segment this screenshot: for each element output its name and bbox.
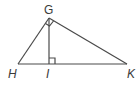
right-angle-mark-i — [49, 58, 55, 64]
label-k: K — [127, 67, 136, 81]
label-h: H — [8, 67, 17, 81]
segment-gk — [49, 18, 127, 64]
label-g: G — [44, 3, 53, 17]
label-i: I — [46, 67, 50, 81]
segment-gh — [18, 18, 49, 64]
triangle-diagram: G H I K — [0, 0, 140, 88]
